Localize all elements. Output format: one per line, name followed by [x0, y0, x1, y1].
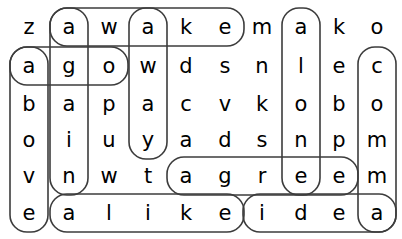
grid-cell[interactable]: c — [360, 49, 394, 83]
grid-cell[interactable]: u — [92, 123, 126, 157]
grid-cell[interactable]: a — [131, 10, 165, 44]
grid-cell[interactable]: m — [360, 123, 394, 157]
grid-cell[interactable]: k — [169, 196, 203, 230]
grid-cell[interactable]: b — [12, 87, 46, 121]
grid-cell[interactable]: p — [322, 123, 356, 157]
grid-cell[interactable]: g — [208, 159, 242, 193]
grid-cell[interactable]: e — [208, 10, 242, 44]
grid-cell[interactable]: n — [245, 49, 279, 83]
grid-cell[interactable]: w — [131, 49, 165, 83]
grid-cell[interactable]: t — [131, 159, 165, 193]
grid-cell[interactable]: o — [360, 87, 394, 121]
grid-cell[interactable]: a — [360, 196, 394, 230]
grid-cell[interactable]: a — [169, 123, 203, 157]
grid-cell[interactable]: o — [92, 49, 126, 83]
grid-cell[interactable]: p — [92, 87, 126, 121]
grid-cell[interactable]: s — [208, 49, 242, 83]
grid-cell[interactable]: d — [284, 196, 318, 230]
grid-cell[interactable]: d — [208, 123, 242, 157]
grid-cell[interactable]: b — [322, 87, 356, 121]
grid-cell[interactable]: e — [322, 196, 356, 230]
grid-cell[interactable]: k — [322, 10, 356, 44]
grid-cell[interactable]: l — [284, 49, 318, 83]
grid-cell[interactable]: a — [284, 10, 318, 44]
grid-cell[interactable]: e — [322, 159, 356, 193]
grid-cell[interactable]: n — [284, 123, 318, 157]
grid-cell[interactable]: g — [52, 49, 86, 83]
letter-grid: zawakemakoagowdsnlecbapacvkobooiuyadsnpm… — [0, 0, 402, 239]
grid-cell[interactable]: i — [245, 196, 279, 230]
grid-cell[interactable]: a — [131, 87, 165, 121]
grid-cell[interactable]: c — [169, 87, 203, 121]
grid-cell[interactable]: i — [52, 123, 86, 157]
grid-cell[interactable]: m — [245, 10, 279, 44]
grid-cell[interactable]: a — [52, 87, 86, 121]
grid-cell[interactable]: v — [12, 159, 46, 193]
grid-cell[interactable]: a — [52, 10, 86, 44]
grid-cell[interactable]: a — [12, 49, 46, 83]
grid-cell[interactable]: e — [208, 196, 242, 230]
grid-cell[interactable]: z — [12, 10, 46, 44]
grid-cell[interactable]: e — [12, 196, 46, 230]
grid-cell[interactable]: k — [169, 10, 203, 44]
grid-cell[interactable]: n — [52, 159, 86, 193]
grid-cell[interactable]: k — [245, 87, 279, 121]
grid-cell[interactable]: a — [52, 196, 86, 230]
grid-cell[interactable]: i — [131, 196, 165, 230]
grid-cell[interactable]: e — [284, 159, 318, 193]
grid-cell[interactable]: m — [360, 159, 394, 193]
grid-cell[interactable]: v — [208, 87, 242, 121]
grid-cell[interactable]: w — [92, 10, 126, 44]
grid-cell[interactable]: y — [131, 123, 165, 157]
grid-cell[interactable]: o — [360, 10, 394, 44]
grid-cell[interactable]: w — [92, 159, 126, 193]
word-search-puzzle: zawakemakoagowdsnlecbapacvkobooiuyadsnpm… — [0, 0, 402, 239]
grid-cell[interactable]: o — [284, 87, 318, 121]
grid-cell[interactable]: o — [12, 123, 46, 157]
grid-cell[interactable]: d — [169, 49, 203, 83]
grid-cell[interactable]: r — [245, 159, 279, 193]
grid-cell[interactable]: a — [169, 159, 203, 193]
grid-cell[interactable]: l — [92, 196, 126, 230]
grid-cell[interactable]: s — [245, 123, 279, 157]
grid-cell[interactable]: e — [322, 49, 356, 83]
